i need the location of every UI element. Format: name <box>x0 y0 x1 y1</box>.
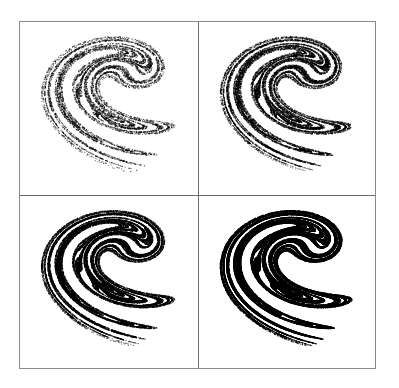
panel-top-right <box>199 22 375 195</box>
attractor-plot-densest <box>199 196 375 368</box>
attractor-figure-grid <box>19 21 376 369</box>
panel-bottom-left <box>20 196 198 368</box>
attractor-plot-dense <box>20 196 198 368</box>
horizontal-divider <box>20 195 375 196</box>
attractor-plot-medium <box>199 22 375 195</box>
panel-bottom-right <box>199 196 375 368</box>
panel-top-left <box>20 22 198 195</box>
attractor-plot-sparse <box>20 22 198 195</box>
